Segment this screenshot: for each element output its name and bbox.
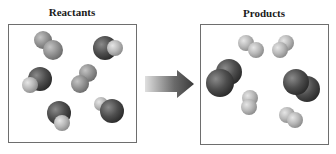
molecule-homonuclear (71, 64, 97, 93)
molecule-light-diatomic (279, 107, 303, 128)
reaction-diagram (0, 0, 336, 154)
molecule-light-diatomic (238, 35, 264, 58)
molecule-dark-diatomic (283, 69, 320, 102)
products-molecules (206, 35, 320, 128)
reaction-arrow-icon (145, 70, 194, 98)
reactants-molecules (22, 31, 124, 131)
molecule-homonuclear (34, 31, 63, 60)
molecule-heteronuclear (94, 97, 124, 123)
molecule-light-diatomic (241, 90, 258, 115)
molecule-heteronuclear (93, 36, 123, 60)
molecule-light-diatomic (272, 35, 294, 58)
molecule-dark-diatomic (206, 59, 242, 97)
molecule-heteronuclear (47, 101, 71, 131)
molecule-heteronuclear (22, 67, 52, 93)
